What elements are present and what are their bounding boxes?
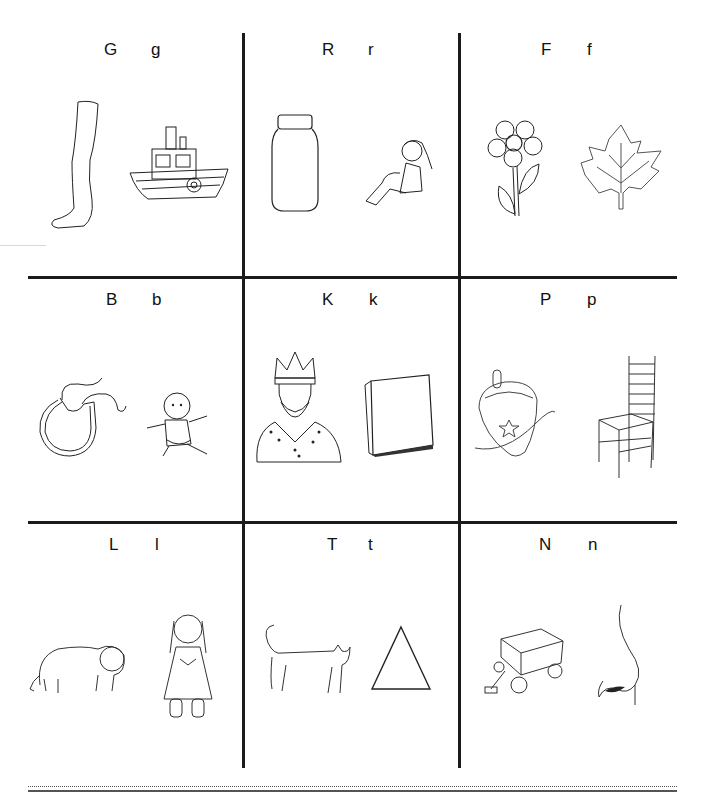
- cell-g: G g: [28, 35, 242, 276]
- triangle-icon: [370, 625, 432, 691]
- letter-lower: p: [587, 290, 596, 310]
- king-icon: [255, 352, 343, 464]
- wagon-icon: [485, 627, 567, 697]
- cell-t: T t: [245, 525, 458, 768]
- letter-lower: t: [368, 535, 373, 555]
- letter-upper: B: [106, 290, 117, 310]
- flower-icon: [487, 118, 542, 218]
- letter-lower: l: [155, 535, 159, 555]
- letter-upper: P: [540, 290, 551, 310]
- letter-upper: L: [109, 535, 118, 555]
- cat-icon: [262, 623, 354, 695]
- letter-lower: f: [587, 40, 592, 60]
- doll-icon: [156, 607, 218, 725]
- leg-icon: [50, 100, 100, 230]
- spinning-top-icon: [475, 368, 559, 460]
- chair-icon: [595, 352, 659, 480]
- letter-lower: r: [368, 40, 374, 60]
- footer-rule: [28, 790, 677, 792]
- baby-icon: [143, 390, 213, 460]
- letter-upper: N: [539, 535, 551, 555]
- letter-lower: n: [588, 535, 597, 555]
- cell-f: F f: [461, 35, 677, 276]
- letter-lower: k: [369, 290, 378, 310]
- girl-sitting-icon: [362, 137, 437, 209]
- letter-upper: F: [541, 40, 551, 60]
- cell-n: N n: [461, 525, 677, 768]
- letter-upper: R: [322, 40, 334, 60]
- letter-upper: G: [104, 40, 117, 60]
- grid-divider-horizontal-2: [28, 521, 677, 524]
- cell-l: L l: [28, 525, 242, 768]
- jar-icon: [272, 113, 320, 213]
- cell-p: P p: [461, 280, 677, 521]
- letter-lower: g: [151, 40, 160, 60]
- grid-divider-horizontal-1: [28, 276, 677, 279]
- letter-upper: K: [322, 290, 333, 310]
- letter-lower: b: [152, 290, 161, 310]
- cell-b: B b: [28, 280, 242, 521]
- bib-icon: [36, 370, 128, 460]
- nose-icon: [595, 605, 651, 705]
- book-icon: [365, 375, 437, 457]
- boat-icon: [128, 125, 233, 205]
- footer-dotted-rule: [28, 786, 677, 787]
- letter-upper: T: [327, 535, 337, 555]
- cell-k: K k: [245, 280, 458, 521]
- lion-icon: [28, 635, 130, 695]
- leaf-icon: [579, 123, 664, 211]
- cell-r: R r: [245, 35, 458, 276]
